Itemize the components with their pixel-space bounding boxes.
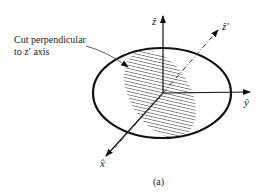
ellipsoid-cut-diagram: Cut perpendicular to z′ axis ẑ ẑ′ ŷ x̂ (… [0,0,265,195]
z-prime-axis-label: ẑ′ [221,20,229,32]
y-axis-label: ŷ [243,96,249,108]
z-axis-label: ẑ [151,15,157,27]
annotation-line-1: Cut perpendicular [14,34,87,45]
x-axis-label: x̂ [99,157,105,169]
annotation-line-2: to z′ axis [14,46,50,57]
figure-caption: (a) [153,176,164,188]
